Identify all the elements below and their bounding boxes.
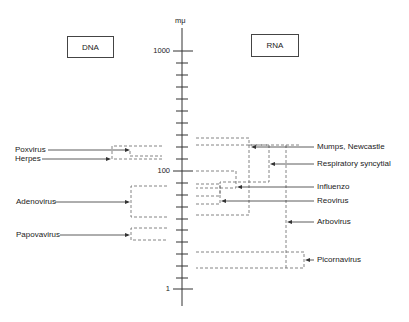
axis-unit-label: mμ — [175, 16, 186, 26]
dna-virus-label: Papovavirus — [16, 230, 60, 240]
rna-virus-label: Mumps, Newcastle — [317, 142, 385, 152]
dna-category-label: DNA — [82, 43, 99, 52]
tick-label-1000: 1000 — [140, 46, 170, 55]
rna-virus-label: Reovirus — [317, 196, 349, 206]
tick-label-100: 100 — [140, 166, 170, 175]
dna-virus-label: Adenovirus — [16, 197, 56, 207]
rna-virus-label: Picornavirus — [317, 255, 361, 265]
dna-virus-label: Herpes — [15, 154, 41, 164]
rna-category-box: RNA — [251, 34, 299, 57]
dna-category-box: DNA — [67, 36, 114, 58]
rna-virus-label: Influenzo — [317, 182, 349, 192]
tick-label-1: 1 — [140, 284, 170, 293]
rna-virus-label: Respiratory syncytial — [317, 159, 391, 169]
rna-category-label: RNA — [267, 41, 284, 50]
rna-virus-label: Arbovirus — [317, 217, 351, 227]
